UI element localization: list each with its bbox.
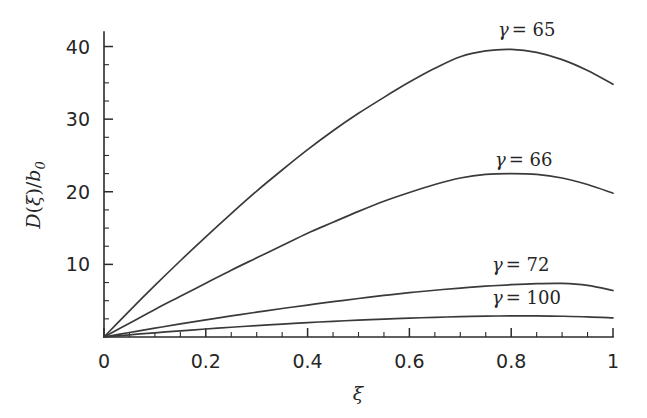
- x-tick-label-5: 1: [607, 350, 619, 372]
- y-tick-label-2: 30: [66, 108, 90, 130]
- annotation-gamma-2: γ= 72: [492, 254, 549, 275]
- y-title-paren-open: (: [22, 206, 44, 213]
- annotation-gamma-value-0: = 65: [512, 19, 556, 40]
- y-axis-ticks: [104, 47, 113, 319]
- y-tick-label-3: 40: [66, 36, 90, 58]
- annotation-gamma-value-2: = 72: [506, 254, 550, 275]
- y-tick-label-0: 10: [66, 253, 90, 275]
- x-tick-label-1: 0.2: [191, 350, 221, 372]
- x-tick-label-2: 0.4: [292, 350, 322, 372]
- y-title-subscript: 0: [33, 161, 48, 169]
- y-title-D: D: [22, 213, 44, 229]
- figure-container: 10203040 00.20.40.60.81 D(ξ)/b0 ξ γ= 65γ…: [0, 0, 647, 418]
- svg-text:D(ξ)/b0: D(ξ)/b0: [22, 161, 48, 229]
- annotation-gamma-symbol-2: γ: [492, 254, 503, 275]
- y-title-paren-close: )/: [22, 181, 44, 195]
- annotation-gamma-symbol-3: γ: [492, 287, 503, 308]
- y-axis-title: D(ξ)/b0: [22, 161, 48, 229]
- annotation-gamma-3: γ= 100: [492, 287, 561, 308]
- x-axis-tick-labels: 00.20.40.60.81: [98, 350, 619, 372]
- y-axis-tick-labels: 10203040: [66, 36, 90, 276]
- x-axis-ticks: [104, 328, 613, 337]
- y-tick-label-1: 20: [66, 181, 90, 203]
- annotation-gamma-symbol-1: γ: [495, 149, 506, 170]
- annotation-gamma-value-3: = 100: [506, 287, 561, 308]
- chart-plot-area: 10203040 00.20.40.60.81 D(ξ)/b0 ξ γ= 65γ…: [0, 0, 647, 418]
- annotation-gamma-value-1: = 66: [509, 149, 553, 170]
- annotation-gamma-1: γ= 66: [495, 149, 552, 170]
- curve-annotations-group: γ= 65γ= 66γ= 72γ= 100: [492, 19, 561, 308]
- annotation-gamma-symbol-0: γ: [498, 19, 509, 40]
- x-tick-label-0: 0: [98, 350, 110, 372]
- x-tick-label-4: 0.8: [496, 350, 526, 372]
- x-tick-label-3: 0.6: [394, 350, 424, 372]
- y-title-b: b: [22, 170, 44, 182]
- annotation-gamma-0: γ= 65: [498, 19, 555, 40]
- x-axis-title: ξ: [353, 382, 365, 404]
